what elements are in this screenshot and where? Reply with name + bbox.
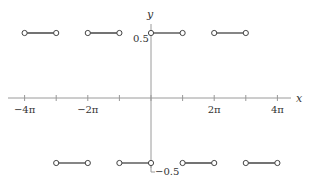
open-endpoint-marker (275, 160, 280, 165)
x-axis-label: x (296, 92, 303, 105)
open-endpoint-marker (85, 30, 90, 35)
x-tick-label: 4π (271, 104, 284, 115)
open-endpoint-marker (117, 30, 122, 35)
open-endpoint-marker (54, 30, 59, 35)
open-endpoint-marker (148, 160, 153, 165)
y-tick-label-bottom: −0.5 (155, 166, 179, 177)
open-endpoint-marker (22, 30, 27, 35)
open-endpoint-marker (212, 30, 217, 35)
open-endpoint-marker (117, 160, 122, 165)
open-endpoint-marker (180, 30, 185, 35)
x-tick-label: −4π (14, 104, 36, 115)
x-tick-label: −2π (77, 104, 99, 115)
y-tick-label-top: 0.5 (133, 33, 149, 44)
open-endpoint-marker (243, 30, 248, 35)
y-axis-label: y (146, 8, 154, 21)
x-tick-label: 2π (208, 104, 221, 115)
open-endpoint-marker (54, 160, 59, 165)
open-endpoint-marker (148, 30, 153, 35)
open-endpoint-marker (180, 160, 185, 165)
open-endpoint-marker (85, 160, 90, 165)
open-endpoint-marker (243, 160, 248, 165)
open-endpoint-marker (212, 160, 217, 165)
step-function-plot: −4π−2π2π4π x y 0.5 −0.5 (0, 0, 311, 185)
